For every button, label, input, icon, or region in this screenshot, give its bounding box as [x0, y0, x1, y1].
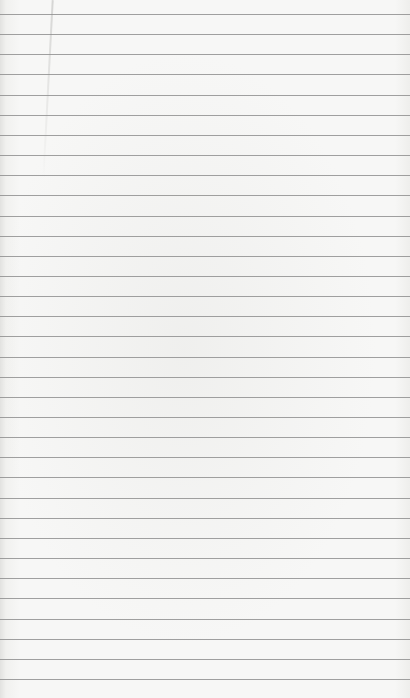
ruled-line — [0, 155, 410, 156]
ruled-line — [0, 316, 410, 317]
ruled-line — [0, 115, 410, 116]
ruled-line — [0, 195, 410, 196]
lined-paper-sheet — [0, 0, 410, 698]
ruled-line — [0, 256, 410, 257]
paper-crease — [42, 0, 53, 180]
ruled-line — [0, 34, 410, 35]
ruled-line — [0, 236, 410, 237]
ruled-line — [0, 477, 410, 478]
ruled-line — [0, 437, 410, 438]
ruled-line — [0, 679, 410, 680]
ruled-line — [0, 619, 410, 620]
ruled-line — [0, 14, 410, 15]
ruled-line — [0, 518, 410, 519]
ruled-line — [0, 135, 410, 136]
ruled-line — [0, 417, 410, 418]
ruled-line — [0, 377, 410, 378]
ruled-line — [0, 216, 410, 217]
ruled-line — [0, 558, 410, 559]
ruled-line — [0, 74, 410, 75]
ruled-line — [0, 538, 410, 539]
ruled-line — [0, 175, 410, 176]
ruled-line — [0, 578, 410, 579]
ruled-line — [0, 598, 410, 599]
ruled-line — [0, 498, 410, 499]
ruled-line — [0, 54, 410, 55]
ruled-line — [0, 659, 410, 660]
ruled-line — [0, 457, 410, 458]
ruled-line — [0, 276, 410, 277]
ruled-line — [0, 397, 410, 398]
ruled-line — [0, 639, 410, 640]
ruled-line — [0, 296, 410, 297]
ruled-line — [0, 336, 410, 337]
ruled-line — [0, 95, 410, 96]
ruled-line — [0, 357, 410, 358]
